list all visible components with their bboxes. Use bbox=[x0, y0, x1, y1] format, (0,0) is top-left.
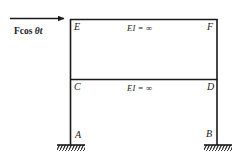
node-label-E: E bbox=[74, 22, 80, 32]
load-label-cos: cos bbox=[20, 26, 35, 36]
node-label-C: C bbox=[74, 82, 81, 92]
node-label-A: A bbox=[75, 130, 81, 140]
load-label: Fcos θt bbox=[14, 27, 42, 37]
node-label-D: D bbox=[207, 82, 214, 92]
support-B-hatching bbox=[204, 145, 232, 151]
node-label-B: B bbox=[206, 129, 212, 139]
mid-beam-stiffness-label: EI = ∞ bbox=[127, 84, 152, 93]
support-A-hatching bbox=[57, 145, 85, 151]
top-beam-stiffness-label: EI = ∞ bbox=[127, 24, 152, 33]
frame-geometry bbox=[0, 0, 238, 159]
node-label-F: F bbox=[207, 22, 213, 32]
load-label-theta-t: θt bbox=[35, 26, 43, 36]
frame-diagram-figure: Fcos θt E F C D A B EI = ∞ EI = ∞ bbox=[0, 0, 238, 159]
